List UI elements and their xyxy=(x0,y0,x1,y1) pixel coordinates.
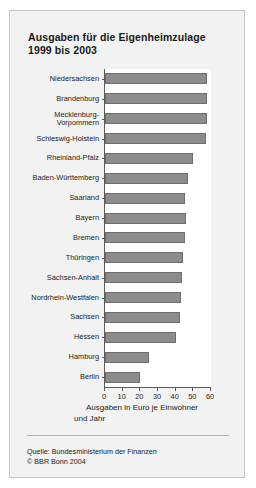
bar xyxy=(105,73,207,84)
x-tick xyxy=(139,387,140,391)
bar-row: Saarland xyxy=(105,188,211,208)
bar-row: Rheinland-Pfalz xyxy=(105,149,211,169)
category-label: Bremen xyxy=(9,234,99,242)
x-axis-title-line1: Ausgaben in Euro je Einwohner xyxy=(86,403,198,412)
category-label: Sachsen xyxy=(9,313,99,321)
bar xyxy=(105,352,149,363)
bar-row: Sachsen-Anhalt xyxy=(105,268,211,288)
category-label: Nordrhein-Westfalen xyxy=(9,293,99,301)
bar xyxy=(105,193,185,204)
x-tick xyxy=(104,387,105,391)
x-axis-title-line2: und Jahr xyxy=(74,414,240,425)
category-label: Niedersachsen xyxy=(9,75,99,83)
bar-row: Brandenburg xyxy=(105,89,211,109)
footer-divider xyxy=(27,435,229,436)
category-label: Schleswig-Holstein xyxy=(9,134,99,142)
source-line1: Quelle: Bundesministerium der Finanzen xyxy=(27,447,157,456)
category-label: Brandenburg xyxy=(9,95,99,103)
category-label: Hamburg xyxy=(9,353,99,361)
bar-rows: NiedersachsenBrandenburgMecklenburg- Vor… xyxy=(105,69,211,387)
bar-row: Bremen xyxy=(105,228,211,248)
x-tick-label: 60 xyxy=(198,392,222,401)
source-note: Quelle: Bundesministerium der Finanzen ©… xyxy=(27,447,233,466)
x-tick xyxy=(157,387,158,391)
x-axis-title: Ausgaben in Euro je Einwohner und Jahr xyxy=(44,403,240,424)
bar-row: Hessen xyxy=(105,327,211,347)
category-label: Hessen xyxy=(9,333,99,341)
bar-row: Sachsen xyxy=(105,308,211,328)
category-label: Mecklenburg- Vorpommern xyxy=(9,110,99,127)
bar xyxy=(105,213,186,224)
x-axis: 0102030405060 xyxy=(104,387,210,388)
bar xyxy=(105,133,206,144)
category-label: Rheinland-Pfalz xyxy=(9,154,99,162)
category-label: Thüringen xyxy=(9,254,99,262)
bar-row: Baden-Württemberg xyxy=(105,168,211,188)
plot-area: NiedersachsenBrandenburgMecklenburg- Vor… xyxy=(104,69,211,387)
category-label: Saarland xyxy=(9,194,99,202)
source-line2: © BBR Bonn 2004 xyxy=(27,457,233,467)
chart-figure: Ausgaben für die Eigenheimzulage 1999 bi… xyxy=(9,10,245,478)
bar-row: Hamburg xyxy=(105,347,211,367)
bar xyxy=(105,272,182,283)
x-tick xyxy=(122,387,123,391)
bar xyxy=(105,372,140,383)
bar xyxy=(105,252,183,263)
plot-region: NiedersachsenBrandenburgMecklenburg- Vor… xyxy=(10,11,245,478)
bar xyxy=(105,153,193,164)
category-label: Bayern xyxy=(9,214,99,222)
bar-row: Niedersachsen xyxy=(105,69,211,89)
bar xyxy=(105,332,176,343)
x-tick xyxy=(210,387,211,391)
bar-row: Thüringen xyxy=(105,248,211,268)
bar-row: Schleswig-Holstein xyxy=(105,129,211,149)
bar xyxy=(105,232,185,243)
bar xyxy=(105,292,181,303)
bar-row: Berlin xyxy=(105,367,211,387)
bar-row: Mecklenburg- Vorpommern xyxy=(105,109,211,129)
bar xyxy=(105,113,207,124)
category-label: Berlin xyxy=(9,373,99,381)
x-tick xyxy=(192,387,193,391)
bar xyxy=(105,312,180,323)
x-tick xyxy=(175,387,176,391)
bar xyxy=(105,93,207,104)
bar-row: Nordrhein-Westfalen xyxy=(105,288,211,308)
category-label: Baden-Württemberg xyxy=(9,174,99,182)
category-label: Sachsen-Anhalt xyxy=(9,273,99,281)
bar xyxy=(105,173,188,184)
bar-row: Bayern xyxy=(105,208,211,228)
